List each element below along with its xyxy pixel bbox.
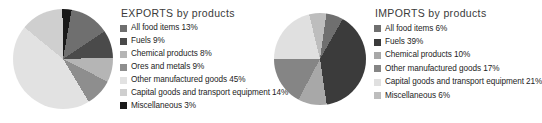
legend-item: Miscellaneous 3% — [120, 99, 288, 112]
legend-color-swatch — [120, 77, 127, 84]
legend-item: Chemical products 10% — [374, 49, 542, 62]
legend-color-swatch — [374, 39, 381, 46]
imports-pie-wrap — [266, 0, 366, 105]
exports-pie-chart — [13, 9, 113, 109]
exports-pie-wrap — [0, 0, 113, 109]
imports-legend-list: All food items 6%Fuels 39%Chemical produ… — [374, 22, 542, 102]
legend-item-label: Other manufactured goods 45% — [131, 76, 245, 84]
legend-color-swatch — [120, 25, 127, 32]
legend-item: Fuels 9% — [120, 35, 288, 48]
exports-chart-panel: EXPORTS by products All food items 13%Fu… — [0, 0, 266, 123]
imports-pie-chart — [274, 13, 366, 105]
imports-chart-panel: IMPORTS by products All food items 6%Fue… — [266, 0, 533, 123]
legend-item-label: Miscellaneous 3% — [131, 102, 196, 110]
legend-color-swatch — [120, 38, 127, 45]
legend-item-label: Chemical products 8% — [131, 50, 212, 58]
legend-item: Fuels 39% — [374, 35, 542, 48]
legend-item: Ores and metals 9% — [120, 61, 288, 74]
legend-color-swatch — [120, 51, 127, 58]
imports-chart-title: IMPORTS by products — [374, 7, 542, 19]
legend-color-swatch — [374, 79, 381, 86]
imports-legend-block: IMPORTS by products All food items 6%Fue… — [374, 0, 542, 102]
legend-color-swatch — [374, 52, 381, 59]
legend-color-swatch — [120, 64, 127, 71]
exports-legend-block: EXPORTS by products All food items 13%Fu… — [120, 0, 288, 112]
legend-color-swatch — [120, 102, 127, 109]
legend-color-swatch — [374, 65, 381, 72]
legend-color-swatch — [120, 89, 127, 96]
legend-item: All food items 13% — [120, 22, 288, 35]
exports-legend-list: All food items 13%Fuels 9%Chemical produ… — [120, 22, 288, 112]
exports-chart-title: EXPORTS by products — [120, 7, 288, 19]
legend-item-label: Capital goods and transport equipment 14… — [131, 89, 288, 97]
legend-color-swatch — [374, 92, 381, 99]
legend-item: Chemical products 8% — [120, 48, 288, 61]
legend-item-label: Other manufactured goods 17% — [385, 65, 499, 73]
legend-color-swatch — [374, 25, 381, 32]
legend-item-label: All food items 6% — [385, 25, 447, 33]
legend-item-label: All food items 13% — [131, 24, 198, 32]
legend-item: Other manufactured goods 17% — [374, 62, 542, 75]
legend-item: Capital goods and transport equipment 21… — [374, 76, 542, 89]
legend-item-label: Chemical products 10% — [385, 51, 470, 59]
legend-item-label: Ores and metals 9% — [131, 63, 204, 71]
legend-item: Capital goods and transport equipment 14… — [120, 86, 288, 99]
legend-item: Other manufactured goods 45% — [120, 74, 288, 87]
legend-item-label: Fuels 9% — [131, 37, 165, 45]
legend-item-label: Capital goods and transport equipment 21… — [385, 78, 542, 86]
legend-item: Miscellaneous 6% — [374, 89, 542, 102]
legend-item-label: Miscellaneous 6% — [385, 92, 450, 100]
legend-item: All food items 6% — [374, 22, 542, 35]
legend-item-label: Fuels 39% — [385, 38, 423, 46]
